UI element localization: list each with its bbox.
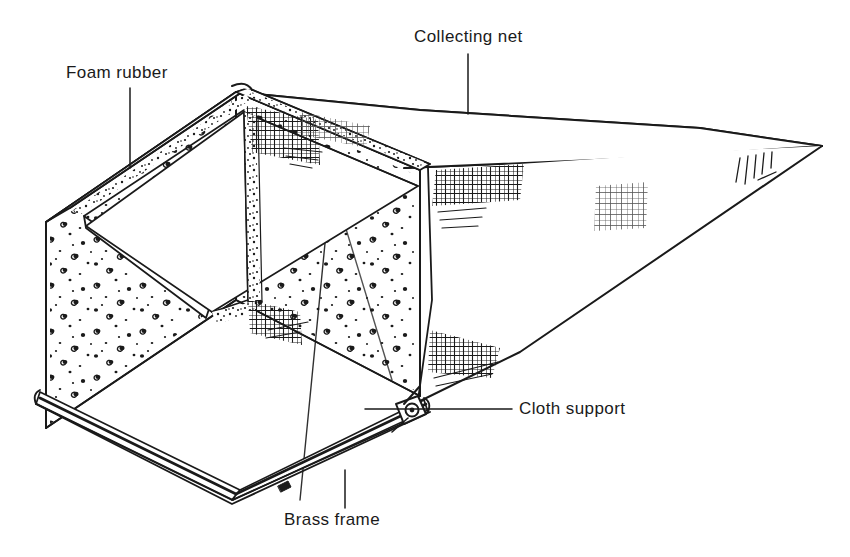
label-brass-frame: Brass frame — [284, 510, 380, 530]
figure-collecting-net-apparatus: Foam rubber Collecting net Cloth support… — [0, 0, 850, 557]
label-foam-rubber: Foam rubber — [66, 63, 168, 83]
diagram-canvas — [0, 0, 850, 557]
brass-frame-rail — [35, 390, 430, 504]
label-cloth-support: Cloth support — [519, 399, 625, 419]
label-collecting-net: Collecting net — [414, 27, 523, 47]
